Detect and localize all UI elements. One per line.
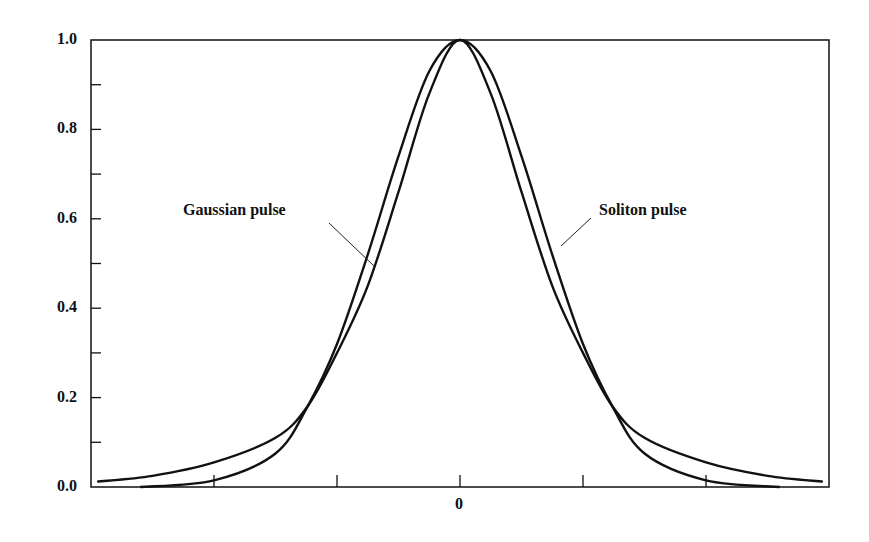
soliton-pulse-curve (97, 40, 823, 482)
y-tick-label: 0.6 (17, 209, 77, 227)
gaussian-pulse-label: Gaussian pulse (183, 201, 286, 219)
soliton-pulse-label: Soliton pulse (599, 201, 687, 219)
plot-frame (91, 40, 829, 487)
y-axis-ticks (91, 85, 101, 443)
y-tick-label: 0.2 (17, 388, 77, 406)
soliton-leader-line (561, 218, 591, 246)
gaussian-leader-line (329, 223, 374, 266)
y-tick-label: 0.8 (17, 119, 77, 137)
gaussian-pulse-curve (140, 40, 780, 487)
y-tick-label: 1.0 (17, 30, 77, 48)
x-axis-ticks (214, 475, 706, 487)
y-tick-label: 0.4 (17, 298, 77, 316)
x-tick-label-zero: 0 (455, 495, 463, 513)
pulse-chart (0, 0, 869, 542)
y-tick-label: 0.0 (17, 477, 77, 495)
